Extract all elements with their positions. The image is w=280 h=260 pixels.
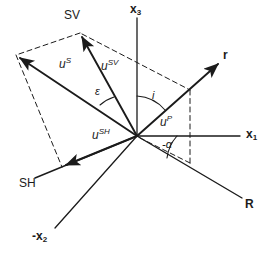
angle-i-arc bbox=[137, 96, 165, 110]
vector-label-u-p: uP bbox=[160, 116, 172, 128]
mode-label-sh: SH bbox=[19, 177, 36, 189]
diagram-root: x3 x1 -x2 r R SV SH uS uSV uSH uP ε i -α bbox=[0, 0, 280, 260]
vector-u-sv-line bbox=[82, 37, 137, 136]
angle-label-i: i bbox=[152, 90, 154, 101]
vector-label-u-sv: uSV bbox=[101, 60, 118, 72]
axis-neg-x2-line bbox=[55, 136, 137, 228]
vector-label-u-s: uS bbox=[59, 58, 71, 70]
displacement-vectors bbox=[20, 37, 218, 165]
sv-to-ray-dashed bbox=[82, 34, 190, 90]
angle-label-neg-alpha: -α bbox=[162, 139, 172, 150]
coordinate-axes bbox=[55, 18, 240, 228]
vector-u-s-line bbox=[20, 58, 137, 136]
ray-label-r: r bbox=[223, 49, 228, 61]
diagram-canvas bbox=[0, 0, 280, 260]
angle-epsilon-arc bbox=[100, 97, 114, 105]
parallelogram-top-edge bbox=[16, 33, 80, 55]
angle-label-epsilon: ε bbox=[95, 86, 100, 97]
axis-label-x3: x3 bbox=[130, 3, 141, 15]
axis-label-x1: x1 bbox=[246, 128, 257, 140]
vector-label-u-sh: uSH bbox=[92, 129, 110, 141]
ray-label-R: R bbox=[245, 198, 254, 210]
ray-r-line bbox=[137, 64, 218, 136]
axis-label-neg-x2: -x2 bbox=[32, 230, 47, 242]
mode-label-sv: SV bbox=[64, 9, 80, 21]
ray-lines bbox=[35, 136, 242, 198]
